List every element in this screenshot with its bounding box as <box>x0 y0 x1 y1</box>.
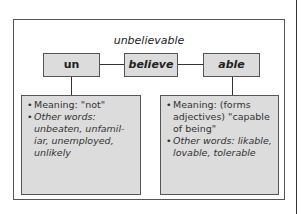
root-box: believe <box>124 53 178 77</box>
suffix-meaning: Meaning: (forms adjectives) "capable of … <box>166 99 274 135</box>
prefix-box: un <box>43 53 100 77</box>
connector-line <box>178 64 203 65</box>
word-structure-diagram: unbelievable un believe able Meaning: "n… <box>13 19 285 200</box>
page-edge-line <box>296 0 297 214</box>
diagram-title: unbelievable <box>14 34 284 47</box>
suffix-other-words: Other words: likable, lovable, tolerable <box>166 135 274 159</box>
prefix-other-words: Other words: unbeaten, unfamil-iar, unem… <box>27 111 136 159</box>
connector-line <box>100 64 124 65</box>
connector-line <box>71 77 72 95</box>
connector-line <box>232 77 233 95</box>
suffix-details-box: Meaning: (forms adjectives) "capable of … <box>160 95 279 195</box>
prefix-details-box: Meaning: "not" Other words: unbeaten, un… <box>21 95 141 195</box>
prefix-meaning: Meaning: "not" <box>27 99 136 111</box>
suffix-box: able <box>203 53 260 77</box>
